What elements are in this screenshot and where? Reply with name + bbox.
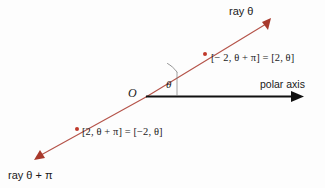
ray-theta-label: ray θ (229, 6, 253, 17)
polar-ray-diagram (0, 0, 325, 188)
figure-background (0, 0, 325, 188)
angle-theta-label: θ (166, 79, 171, 90)
point-marker-lower (75, 127, 79, 131)
equation-upper-label: [− 2, θ + π] = [2, θ] (211, 53, 294, 64)
point-marker-upper (203, 52, 207, 56)
ray-theta-plus-pi-label: ray θ + π (8, 170, 53, 181)
equation-lower-label: [2, θ + π] = [−2, θ] (82, 127, 163, 138)
polar-axis-label: polar axis (260, 79, 305, 90)
origin-label: O (128, 87, 137, 99)
